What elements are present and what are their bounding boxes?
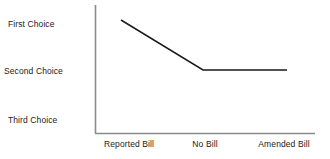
x-tick-label-reported-bill: Reported Bill bbox=[104, 139, 154, 149]
x-tick-label-amended-bill: Amended Bill bbox=[258, 139, 309, 149]
x-tick-label-no-bill: No Bill bbox=[192, 139, 217, 149]
y-tick-label-second-choice: Second Choice bbox=[4, 66, 90, 76]
preference-series-line bbox=[121, 20, 287, 70]
y-tick-label-first-choice: First Choice bbox=[8, 19, 94, 29]
preference-line-chart: First Choice Second Choice Third Choice … bbox=[0, 0, 330, 159]
y-tick-label-third-choice: Third Choice bbox=[8, 115, 94, 125]
